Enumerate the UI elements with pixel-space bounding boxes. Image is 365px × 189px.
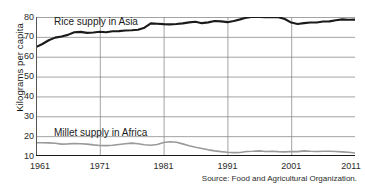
y-tick-label: 70: [12, 32, 34, 41]
series-label-millet: Millet supply in Africa: [54, 128, 147, 138]
series-line-millet: [36, 142, 355, 153]
y-tick-label: 20: [12, 132, 34, 141]
x-tick-label: 1961: [30, 162, 50, 171]
y-tick-label: 60: [12, 52, 34, 61]
y-tick-label: 30: [12, 112, 34, 121]
chart-container: Kilograms per capita 1020304050607080 19…: [0, 0, 365, 189]
x-tick-label: 2011: [341, 162, 360, 171]
y-tick-label: 50: [12, 72, 34, 81]
source-note: Source: Food and Agricultural Organizati…: [202, 175, 357, 183]
x-axis-tick-labels: 196119711981199120012011: [36, 160, 355, 174]
x-tick-label: 1981: [154, 162, 174, 171]
x-tick-label: 2001: [281, 162, 301, 171]
series-label-rice: Rice supply in Asia: [54, 17, 138, 27]
y-tick-label: 10: [12, 152, 34, 161]
y-tick-label: 80: [12, 13, 34, 22]
x-tick-label: 1971: [90, 162, 110, 171]
y-tick-label: 40: [12, 92, 34, 101]
x-tick-label: 1991: [217, 162, 237, 171]
